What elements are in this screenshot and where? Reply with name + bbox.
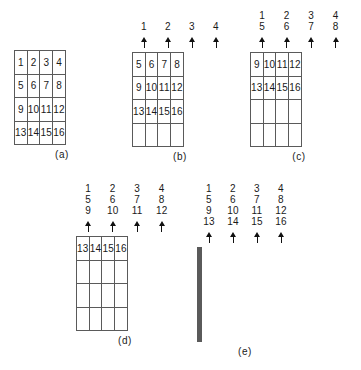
grid-cell: 16 [53, 122, 66, 146]
arrow-column [132, 37, 156, 48]
label-value: 11 [132, 205, 143, 216]
label-column: 4812 [150, 182, 175, 216]
arrow-up-icon [141, 37, 148, 48]
arrow-up-icon [189, 37, 196, 48]
grid-d: 13141516 [76, 236, 128, 331]
grid-cell: 11 [158, 77, 171, 101]
arrow-shaft [192, 40, 193, 48]
grid-cell: 10 [146, 77, 159, 101]
grid-cell: 2 [28, 51, 41, 75]
label-value: 7 [308, 21, 314, 32]
grid-cell: 14 [90, 237, 103, 261]
label-value: 4 [333, 10, 339, 21]
label-column: 26 [275, 9, 300, 32]
grid-cell [276, 124, 289, 148]
label-value: 13 [203, 216, 215, 227]
grid-cell: 15 [102, 237, 115, 261]
grid-cell [77, 261, 90, 285]
arrow-up-icon [254, 232, 261, 243]
label-value: 1 [259, 10, 265, 21]
panel-caption-c: (c) [250, 151, 348, 162]
label-column: 371115 [245, 182, 269, 227]
grid-cell: 3 [40, 51, 53, 75]
label-value: 10 [227, 205, 239, 216]
grid-cell [115, 261, 128, 285]
grid-cell [102, 284, 115, 308]
grid-cell: 16 [115, 237, 128, 261]
label-value: 4 [159, 183, 165, 194]
label-column: 481216 [269, 182, 293, 227]
arrow-shaft [88, 224, 89, 232]
arrow-up-icon [213, 37, 220, 48]
arrow-shaft [144, 40, 145, 48]
arrow-shaft [335, 40, 336, 48]
grid-cell: 15 [40, 122, 53, 146]
grid-cell [77, 284, 90, 308]
grid-cell: 7 [40, 75, 53, 99]
arrow-shaft [281, 235, 282, 243]
arrow-shaft [311, 40, 312, 48]
grid-cell [276, 100, 289, 124]
label-value: 14 [227, 216, 239, 227]
grid-cell [201, 248, 202, 272]
arrow-column [197, 232, 221, 243]
label-column: 159 [76, 182, 101, 216]
grid-cell [171, 124, 184, 148]
arrow-up-icon [109, 221, 116, 232]
label-value: 2 [110, 183, 116, 194]
grid-cell: 11 [276, 53, 289, 77]
grid-cell: 16 [171, 100, 184, 124]
grid-cell [264, 124, 277, 148]
arrow-row-e [197, 232, 293, 243]
grid-cell: 15 [276, 77, 289, 101]
grid-cell [90, 308, 103, 332]
grid-cell: 14 [146, 100, 159, 124]
label-value: 12 [275, 205, 287, 216]
grid-cell [146, 124, 159, 148]
arrow-column [299, 37, 324, 48]
label-stack-e: 15913261014371115481216 [197, 182, 293, 227]
arrow-up-icon [230, 232, 237, 243]
grid-cell: 10 [264, 53, 277, 77]
arrow-shaft [168, 40, 169, 48]
grid-cell: 15 [158, 100, 171, 124]
grid-cell: 14 [264, 77, 277, 101]
grid-cell: 9 [133, 77, 146, 101]
label-value: 9 [206, 205, 212, 216]
panel-caption-b: (b) [132, 151, 228, 162]
grid-cell [264, 100, 277, 124]
label-value: 5 [206, 194, 212, 205]
arrow-shaft [257, 235, 258, 243]
grid-cell: 4 [53, 51, 66, 75]
grid-cell: 9 [251, 53, 264, 77]
label-stack-b: 1234 [132, 20, 228, 32]
label-column: 37 [299, 9, 324, 32]
label-column: 4 [204, 20, 228, 32]
label-stack-d: 159261037114812 [76, 182, 174, 216]
label-value: 12 [156, 205, 168, 216]
grid-cell [289, 100, 302, 124]
label-value: 3 [134, 183, 140, 194]
arrow-column [269, 232, 293, 243]
label-value: 2 [165, 21, 171, 32]
arrow-column [245, 232, 269, 243]
label-column: 15 [250, 9, 275, 32]
label-column: 48 [324, 9, 349, 32]
label-value: 1 [206, 183, 212, 194]
grid-cell: 1 [15, 51, 28, 75]
arrow-shaft [262, 40, 263, 48]
figure-canvas: { "figure": { "background": "#ffffff", "… [0, 0, 361, 370]
label-value: 10 [107, 205, 119, 216]
arrow-row-c [250, 37, 348, 48]
label-value: 1 [85, 183, 91, 194]
grid-cell [201, 295, 202, 319]
grid-cell [251, 100, 264, 124]
label-value: 8 [278, 194, 284, 205]
grid-cell: 6 [28, 75, 41, 99]
arrow-up-icon [283, 37, 290, 48]
arrow-row-d [76, 221, 174, 232]
grid-a: 12345678910111213141516 [14, 50, 66, 145]
arrow-shaft [209, 235, 210, 243]
label-value: 16 [275, 216, 287, 227]
arrow-column [180, 37, 204, 48]
